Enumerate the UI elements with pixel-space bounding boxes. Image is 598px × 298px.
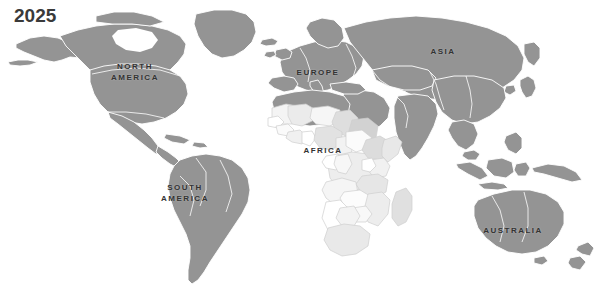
world-map-canvas: 2025 bbox=[0, 0, 598, 298]
label-africa: AFRICA bbox=[303, 145, 342, 156]
label-europe: EUROPE bbox=[297, 67, 340, 78]
label-south-america: SOUTH AMERICA bbox=[161, 182, 209, 204]
label-asia: ASIA bbox=[430, 46, 455, 57]
label-north-america: NORTH AMERICA bbox=[111, 61, 159, 83]
world-map bbox=[0, 0, 598, 298]
label-australia: AUSTRALIA bbox=[483, 225, 543, 236]
page-title: 2025 bbox=[14, 6, 56, 25]
